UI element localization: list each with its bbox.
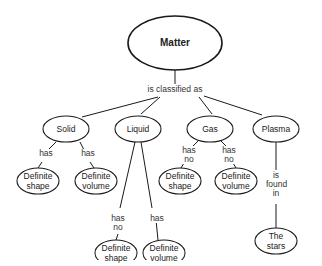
link-gas-shape: has no: [180, 146, 198, 164]
node-liquid-definite-volume: Definite volume: [143, 240, 185, 266]
node-solid-definite-shape: Definite shape: [17, 168, 59, 194]
link-liquid-shape: has no: [109, 214, 127, 232]
node-the-stars: The stars: [255, 228, 297, 254]
node-liquid-definite-shape: Definite shape: [95, 240, 137, 266]
node-gas: Gas: [187, 116, 233, 142]
node-solid: Solid: [43, 116, 89, 142]
link-gas-volume: has no: [220, 146, 238, 164]
node-liquid: Liquid: [115, 116, 161, 142]
node-gas-definite-shape: Definite shape: [159, 168, 201, 194]
node-matter: Matter: [128, 16, 222, 70]
link-solid-shape: has: [37, 149, 55, 158]
node-matter-label: Matter: [160, 38, 190, 48]
node-plasma: Plasma: [253, 116, 299, 142]
link-is-classified-as: is classified as: [138, 85, 212, 94]
node-solid-definite-volume: Definite volume: [75, 168, 117, 194]
node-gas-definite-volume: Definite volume: [215, 168, 257, 194]
link-plasma-stars: is found in: [266, 171, 286, 198]
link-solid-volume: has: [79, 149, 97, 158]
link-liquid-volume: has: [148, 214, 166, 223]
